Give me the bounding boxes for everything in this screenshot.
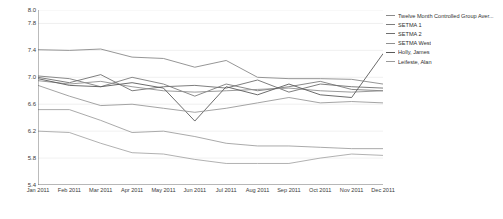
x-tick-label: Jan 2011 — [27, 187, 50, 193]
x-tick-label: May 2011 — [151, 187, 175, 193]
legend-swatch-icon — [386, 61, 395, 62]
legend-swatch-icon — [386, 43, 395, 44]
plot-svg — [38, 10, 383, 185]
x-tick-label: Aug 2011 — [246, 187, 270, 193]
series-line — [38, 85, 383, 112]
legend-item-label: Leifeste, Alan — [398, 59, 432, 65]
legend-item[interactable]: SETMA 1 — [386, 20, 502, 29]
legend-item-label: Twelve Month Controlled Group Aver... — [398, 13, 494, 19]
legend-item-label: Holly, James — [398, 49, 430, 55]
gridlines — [38, 10, 383, 185]
y-tick-label: 7.8 — [28, 20, 36, 26]
legend-item-label: SETMA 1 — [398, 22, 422, 28]
x-tick-label: Dec 2011 — [371, 187, 395, 193]
series-line — [38, 49, 383, 84]
legend-item[interactable]: Holly, James — [386, 48, 502, 57]
x-tick-label: Sep 2011 — [277, 187, 301, 193]
x-tick-label: Nov 2011 — [340, 187, 364, 193]
x-tick-label: Apr 2011 — [121, 187, 143, 193]
y-tick-label: 5.8 — [28, 155, 36, 161]
x-tick-label: Jul 2011 — [216, 187, 237, 193]
legend-swatch-icon — [386, 52, 395, 53]
plot-area — [38, 10, 383, 185]
y-tick-label: 6.6 — [28, 101, 36, 107]
line-chart: Average Value 8.07.87.47.06.66.25.85.4 J… — [0, 0, 503, 219]
x-axis-tick-labels: Jan 2011Feb 2011Mar 2011Apr 2011May 2011… — [38, 187, 383, 205]
y-tick-label: 7.0 — [28, 74, 36, 80]
legend-item[interactable]: SETMA West — [386, 39, 502, 48]
legend-item-label: SETMA West — [398, 40, 431, 46]
x-tick-label: Jun 2011 — [184, 187, 207, 193]
x-tick-label: Oct 2011 — [309, 187, 331, 193]
legend-item[interactable]: Twelve Month Controlled Group Aver... — [386, 11, 502, 20]
legend-item-label: SETMA 2 — [398, 31, 422, 37]
x-tick-label: Mar 2011 — [89, 187, 112, 193]
y-tick-label: 6.2 — [28, 128, 36, 134]
y-axis-tick-labels: 8.07.87.47.06.66.25.85.4 — [14, 10, 36, 185]
chart-legend: Twelve Month Controlled Group Aver...SET… — [386, 11, 502, 66]
x-tick-label: Feb 2011 — [58, 187, 81, 193]
series-line — [38, 131, 383, 163]
y-tick-label: 7.4 — [28, 47, 36, 53]
series-lines — [38, 49, 383, 163]
series-line — [38, 110, 383, 149]
y-tick-label: 8.0 — [28, 7, 36, 13]
legend-swatch-icon — [386, 24, 395, 25]
legend-swatch-icon — [386, 15, 395, 16]
legend-item[interactable]: Leifeste, Alan — [386, 57, 502, 66]
legend-item[interactable]: SETMA 2 — [386, 29, 502, 38]
y-axis-title-container: Average Value — [0, 0, 14, 185]
legend-swatch-icon — [386, 33, 395, 34]
